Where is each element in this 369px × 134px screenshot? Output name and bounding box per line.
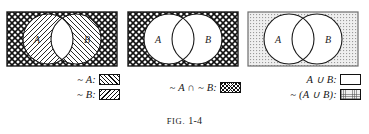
venn-svg-2: A B: [127, 11, 247, 69]
circle-b-label-2: B: [205, 34, 211, 45]
legend-a-union-b-swatch: [340, 74, 361, 85]
circle-b-label-1: B: [84, 34, 90, 45]
legend-1: ~ A: ~ B:: [6, 72, 126, 102]
legend-not-a-intersect-not-b: ~ A ∩ ~ B:: [127, 80, 247, 95]
circle-a-label-2: A: [154, 34, 162, 45]
legend-not-b: ~ B:: [6, 87, 126, 101]
venn-svg-1: A B: [6, 11, 126, 69]
venn-diagram-3: A B: [247, 11, 367, 69]
circle-b-label-3: B: [325, 34, 331, 45]
legend-not-b-swatch: [99, 89, 120, 100]
venn-panel-1: A B ~ A: ~ B:: [6, 0, 126, 112]
legend-not-a-label: ~ A:: [77, 74, 96, 85]
venn-svg-3: A B: [247, 11, 367, 69]
legend-not-a-intersect-not-b-label: ~ A ∩ ~ B:: [170, 82, 217, 93]
figure-caption: FIG. 1-4: [0, 115, 369, 126]
figure-caption-prefix: FIG.: [167, 116, 186, 126]
figure-caption-number: 1-4: [188, 115, 202, 126]
legend-not-a-union-b: ~ (A ∪ B):: [247, 87, 367, 101]
legend-not-a-swatch: [99, 74, 120, 85]
circle-a-label-3: A: [274, 34, 282, 45]
figure-sheet: A B ~ A: ~ B:: [0, 0, 369, 134]
circle-a-label-1: A: [33, 34, 41, 45]
legend-a-union-b-label: A ∪ B:: [306, 73, 337, 85]
legend-not-a-intersect-not-b-swatch: [220, 82, 241, 93]
legend-a-union-b: A ∪ B:: [247, 72, 367, 86]
legend-not-b-label: ~ B:: [77, 89, 96, 100]
legend-not-a-union-b-swatch: [340, 89, 361, 100]
legend-3: A ∪ B: ~ (A ∪ B):: [247, 72, 367, 102]
legend-2: ~ A ∩ ~ B:: [127, 72, 247, 96]
legend-not-a-union-b-label: ~ (A ∪ B):: [290, 88, 337, 100]
legend-not-a: ~ A:: [6, 72, 126, 86]
venn-panel-2: A B ~ A ∩ ~ B:: [127, 0, 247, 112]
venn-panel-3: A B A ∪ B: ~ (A ∪ B):: [247, 0, 367, 112]
venn-diagram-1: A B: [6, 11, 126, 69]
venn-diagram-2: A B: [127, 11, 247, 69]
